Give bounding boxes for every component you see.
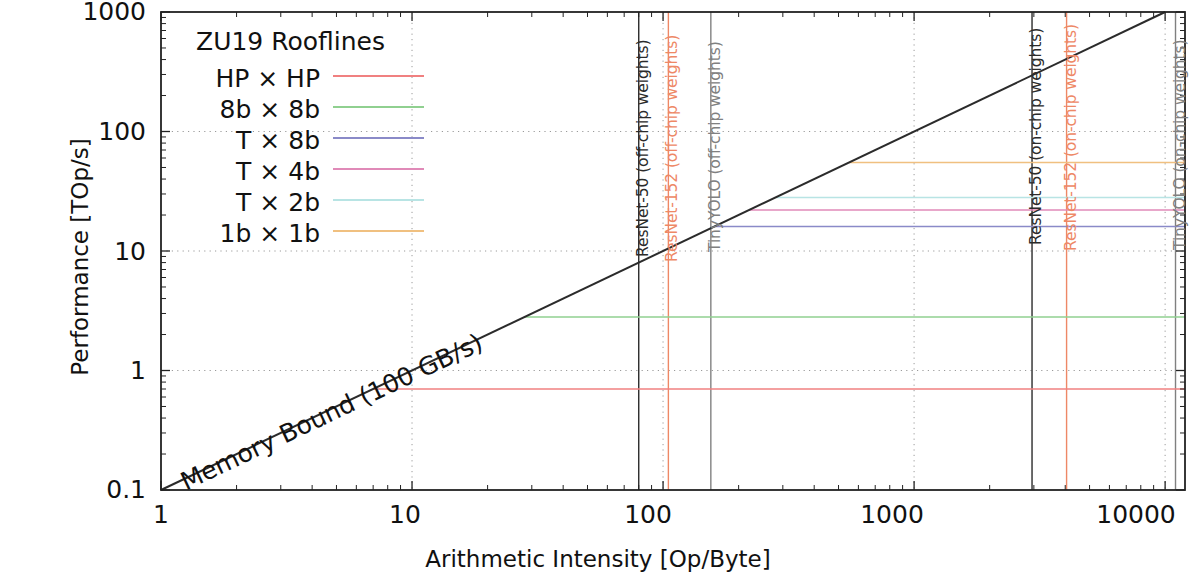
x-tick-label-100: 100 [558,500,738,529]
x-tick-label-10: 10 [315,500,495,529]
legend-title: ZU19 Rooflines [196,27,385,56]
legend-label-t-8b: T × 8b [130,126,320,155]
vline-label-resnet152-onchip: ResNet-152 (on-chip weights) [1062,24,1080,251]
y-tick-label-1000: 1000 [6,0,146,26]
vline-label-tinyyolo-offchip: TinyYOLO (off-chip weights) [706,41,724,252]
x-tick-label-1: 1 [71,500,251,529]
legend-label-1b-1b: 1b × 1b [130,219,320,248]
legend-label-t-2b: T × 2b [130,188,320,217]
y-tick-label-100: 100 [6,117,146,146]
y-tick-label-1: 1 [6,356,146,385]
y-tick-label-10: 10 [6,237,146,266]
vline-label-resnet152-offchip: ResNet-152 (off-chip weights) [663,35,681,262]
x-axis-title: Arithmetic Intensity [Op/Byte] [0,546,1196,572]
vline-label-tinyyolo-onchip: TinyYOLO (on-chip weights) [1171,40,1189,250]
x-tick-label-1000: 1000 [802,500,982,529]
legend-label-t-4b: T × 4b [130,157,320,186]
legend-label-8b-8b: 8b × 8b [130,95,320,124]
legend-label-hp-hp: HP × HP [130,64,320,93]
legend-swatches-group [333,76,424,231]
vline-label-resnet50-offchip: ResNet-50 (off-chip weights) [634,40,652,257]
vline-label-resnet50-onchip: ResNet-50 (on-chip weights) [1027,28,1045,245]
roofline-chart-figure: Performance [TOp/s] Arithmetic Intensity… [0,0,1196,584]
x-tick-label-10000: 10000 [1046,500,1196,529]
